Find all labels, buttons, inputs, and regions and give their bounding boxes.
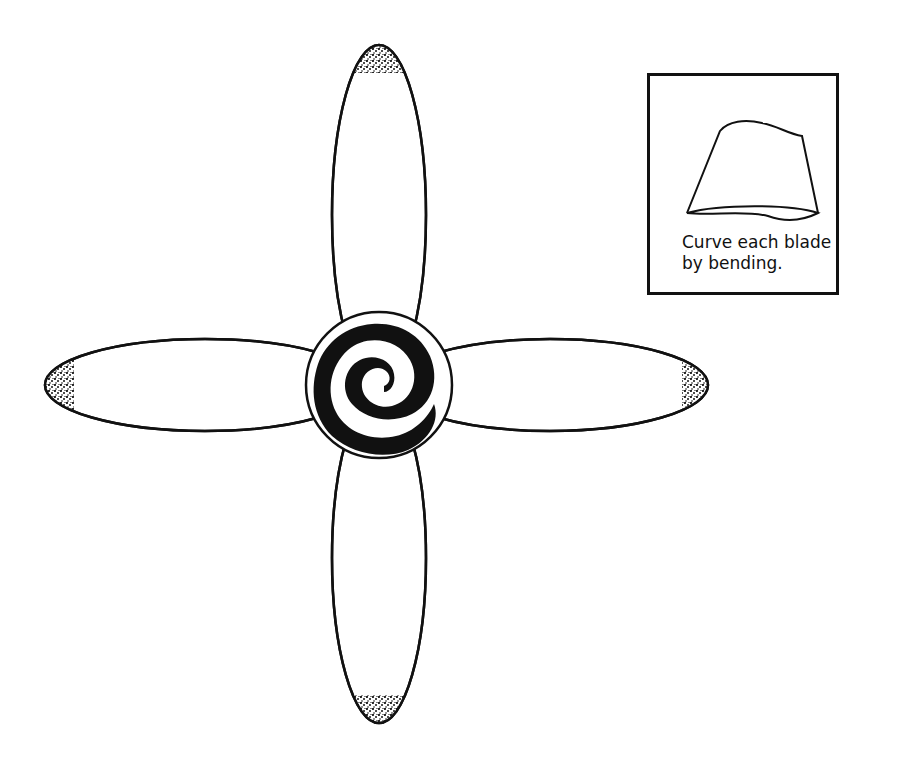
caption-line-2: by bending. [682,253,831,274]
inset-caption: Curve each blade by bending. [682,232,831,274]
hub [306,312,452,458]
stippled-tip [330,695,430,730]
caption-line-1: Curve each blade [682,232,831,253]
curved-blade-illustration [650,76,836,226]
stippled-tip [682,335,716,435]
inset-panel: Curve each blade by bending. [647,73,839,295]
